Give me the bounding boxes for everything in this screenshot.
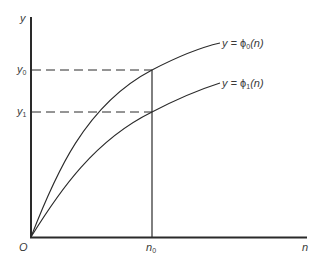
phi0-prefix: y = — [222, 37, 240, 49]
diagram-canvas — [0, 0, 319, 259]
curve-phi0-label: y = ϕ0(n) — [222, 38, 264, 50]
y1-tick-label: y1 — [17, 106, 26, 118]
n0-sub: 0 — [152, 247, 156, 254]
origin-label: O — [19, 242, 28, 253]
phi1-prefix: y = — [222, 77, 240, 89]
curve-phi0 — [31, 43, 220, 237]
n0-tick-label: n0 — [146, 242, 156, 254]
curve-phi1 — [31, 83, 220, 237]
y0-sub: 0 — [23, 69, 27, 76]
curve-phi1-label: y = ϕ1(n) — [222, 78, 264, 90]
y0-tick-label: y0 — [17, 64, 26, 76]
phi0-arg: (n) — [250, 37, 263, 49]
y1-sub: 1 — [23, 111, 27, 118]
phi1-arg: (n) — [250, 77, 263, 89]
x-axis-label: n — [302, 242, 308, 253]
y-axis-label: y — [20, 13, 26, 24]
